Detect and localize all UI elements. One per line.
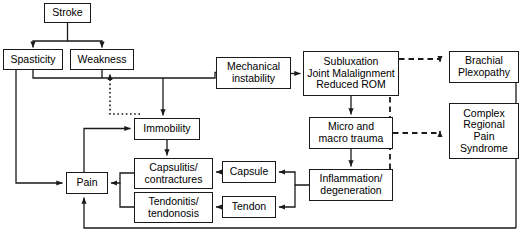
edge-inflammation-to-tendon (279, 185, 295, 207)
node-spasticity-label: Spasticity (11, 54, 56, 66)
node-immobility-label: Immobility (143, 123, 190, 135)
node-subluxation-label: Subluxation Joint Malalignment Reduced R… (307, 56, 395, 91)
node-pain[interactable]: Pain (66, 172, 108, 194)
node-brachial-plexopathy-label: Brachial Plexopathy (458, 55, 510, 79)
node-complex-regional-pain-syndrome-label: Complex Regional Pain Syndrome (460, 108, 508, 155)
node-weakness[interactable]: Weakness (70, 49, 134, 70)
edge-pain-to-immobility (84, 129, 131, 173)
node-stroke[interactable]: Stroke (44, 3, 91, 23)
node-inflammation-degeneration-label: Inflammation/ degeneration (319, 173, 382, 197)
node-capsulitis-contractures-label: Capsulitis/ contractures (145, 162, 203, 186)
node-inflammation-degeneration[interactable]: Inflammation/ degeneration (309, 169, 393, 201)
node-subluxation[interactable]: Subluxation Joint Malalignment Reduced R… (303, 51, 399, 96)
edge-spasticity-to-pain (16, 70, 63, 183)
node-tendonitis-tendonosis[interactable]: Tendonitis/ tendonosis (134, 192, 213, 223)
edge-tendonitis-to-merge (120, 183, 134, 207)
node-immobility[interactable]: Immobility (134, 118, 200, 140)
edge-stroke-to-weakness (68, 41, 103, 48)
node-mechanical-instability-label: Mechanical instability (227, 61, 280, 85)
node-spasticity[interactable]: Spasticity (3, 49, 63, 70)
edge-micro-to-crps (393, 131, 440, 133)
node-brachial-plexopathy[interactable]: Brachial Plexopathy (449, 51, 519, 83)
node-weakness-label: Weakness (78, 54, 127, 66)
node-capsule[interactable]: Capsule (222, 161, 276, 183)
node-tendonitis-tendonosis-label: Tendonitis/ tendonosis (148, 196, 199, 220)
edge-capsulitis-to-merge (111, 173, 134, 183)
node-mechanical-instability[interactable]: Mechanical instability (216, 57, 291, 89)
node-tendon[interactable]: Tendon (222, 196, 276, 218)
node-complex-regional-pain-syndrome[interactable]: Complex Regional Pain Syndrome (449, 103, 519, 159)
edge-stroke-to-spasticity (33, 23, 68, 48)
node-capsule-label: Capsule (230, 166, 269, 178)
node-micro-macro-trauma[interactable]: Micro and macro trauma (309, 117, 393, 149)
node-micro-macro-trauma-label: Micro and macro trauma (319, 121, 384, 145)
node-pain-label: Pain (76, 177, 97, 189)
edge-inflammation-to-capsule (279, 172, 309, 185)
edge-immobility-to-weakness (110, 74, 140, 114)
node-tendon-label: Tendon (232, 201, 266, 213)
edge-subluxation-to-brachial (399, 59, 440, 62)
node-stroke-label: Stroke (52, 7, 82, 19)
flowchart-diagram: Stroke Spasticity Weakness Mechanical in… (0, 0, 523, 249)
node-capsulitis-contractures[interactable]: Capsulitis/ contractures (134, 158, 213, 189)
